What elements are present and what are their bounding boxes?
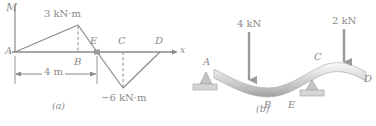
- pin-support-triangle: [200, 72, 212, 84]
- roller-support-base: [300, 90, 324, 96]
- beam-moment-figure: M x 3 kN·m −6 kN·m 4 m A B E C D (a): [0, 0, 376, 126]
- point-label-a-beam: A: [203, 57, 210, 67]
- point-label-e-beam: E: [288, 100, 295, 110]
- point-label-c-beam: C: [314, 52, 322, 62]
- load-label-2kn: 2 kN: [332, 16, 356, 26]
- beam-body: [214, 63, 366, 97]
- deflected-beam-graphics: [0, 0, 376, 126]
- caption-b: (b): [256, 104, 270, 114]
- pin-support-base: [193, 84, 217, 90]
- load-label-4kn: 4 kN: [237, 19, 261, 29]
- point-label-d-beam: D: [364, 74, 372, 84]
